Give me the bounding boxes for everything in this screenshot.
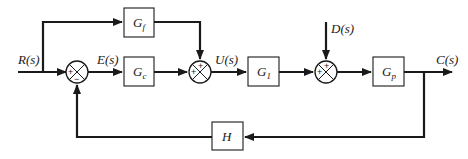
feedforward-path: Gf bbox=[43, 8, 200, 72]
sj1-plus-sign: + bbox=[68, 67, 73, 77]
disturbance-input: D(s) bbox=[326, 21, 354, 59]
summing-junction-1: + − bbox=[66, 61, 88, 84]
input-label: R(s) bbox=[17, 52, 40, 67]
sj2-left-plus: + bbox=[191, 67, 196, 77]
disturbance-label: D(s) bbox=[330, 21, 354, 36]
sj1-minus-sign: − bbox=[74, 74, 79, 84]
input-signal: R(s) bbox=[17, 52, 66, 72]
control-label: U(s) bbox=[215, 52, 238, 67]
feedback-wire-out bbox=[77, 85, 212, 137]
sj3-top-plus: + bbox=[324, 61, 329, 71]
summing-junction-3: + + bbox=[315, 61, 337, 83]
sj3-left-plus: + bbox=[317, 67, 322, 77]
summing-junction-2: + + bbox=[189, 61, 211, 83]
sj2-top-plus: + bbox=[198, 61, 203, 71]
output-label: C(s) bbox=[436, 52, 458, 67]
block-h-label: H bbox=[221, 129, 232, 144]
control-block-diagram: R(s) Gf + − E(s) Gc + + U(s) G1 D(s) bbox=[0, 0, 468, 159]
error-label: E(s) bbox=[96, 52, 119, 67]
feedforward-wire-out bbox=[154, 22, 200, 59]
